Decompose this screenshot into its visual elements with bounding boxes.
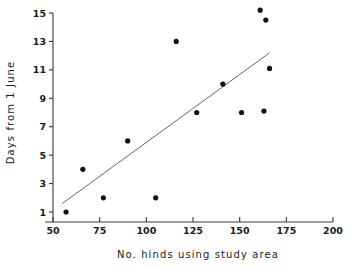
data-point-marker <box>153 195 158 200</box>
x-tick-label: 125 <box>183 225 203 236</box>
y-tick-label: 9 <box>39 93 46 104</box>
x-tick-label: 175 <box>276 225 296 236</box>
data-point-marker <box>263 18 268 23</box>
x-tick-label: 150 <box>230 225 250 236</box>
y-axis: 13579111315 <box>33 8 53 223</box>
y-tick-label: 3 <box>39 178 46 189</box>
data-point-marker <box>125 138 130 143</box>
data-point-marker <box>63 209 68 214</box>
scatter-plot-figure: 13579111315 5075100125150175200 No. hind… <box>0 0 350 268</box>
y-tick-label: 7 <box>39 121 46 132</box>
data-point-marker <box>194 110 199 115</box>
x-tick-label: 100 <box>136 225 156 236</box>
y-tick-label: 11 <box>33 64 46 75</box>
y-tick-label: 5 <box>39 150 46 161</box>
y-tick-label: 1 <box>39 207 46 218</box>
x-tick-label: 200 <box>323 225 343 236</box>
x-tick-label: 75 <box>93 225 106 236</box>
data-point-marker <box>80 167 85 172</box>
data-point-marker <box>220 81 225 86</box>
fit-line <box>62 53 269 204</box>
data-point-marker <box>267 66 272 71</box>
data-point-marker <box>239 110 244 115</box>
data-point-marker <box>261 108 266 113</box>
data-point-marker <box>258 8 263 13</box>
x-axis: 5075100125150175200 <box>45 217 343 236</box>
y-tick-label: 15 <box>33 8 46 19</box>
data-point-marker <box>174 39 179 44</box>
plot-canvas: 13579111315 5075100125150175200 No. hind… <box>0 0 350 268</box>
data-point-marker <box>101 195 106 200</box>
y-tick-label: 13 <box>33 36 46 47</box>
x-axis-title: No. hinds using study area <box>117 249 279 260</box>
regression-line <box>62 53 269 204</box>
y-axis-title: Days from 1 June <box>5 61 16 165</box>
x-tick-label: 50 <box>46 225 60 236</box>
data-points <box>63 8 272 215</box>
